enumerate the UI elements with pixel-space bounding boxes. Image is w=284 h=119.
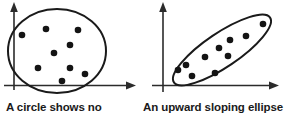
data-point (75, 27, 82, 34)
panel-ellipse: An upward sloping ellipse (142, 0, 284, 119)
data-point (51, 50, 58, 57)
data-point (212, 70, 219, 77)
data-point (35, 65, 42, 72)
data-point (243, 33, 250, 40)
x-axis-arrowhead (269, 81, 279, 89)
circle-outline (8, 9, 106, 93)
data-point (260, 21, 267, 28)
data-point (82, 71, 89, 78)
y-axis-arrowhead (159, 2, 167, 12)
data-point (67, 42, 74, 49)
x-axis-arrowhead (126, 81, 136, 89)
y-axis-arrowhead (10, 2, 18, 12)
data-points-circle (19, 26, 89, 85)
data-point (202, 54, 209, 61)
data-point (227, 37, 234, 44)
data-point (183, 62, 190, 69)
data-point (175, 67, 182, 74)
panel-circle: A circle shows no (0, 0, 142, 119)
caption-ellipse: An upward sloping ellipse (142, 100, 284, 114)
data-point (19, 32, 26, 39)
data-point (216, 45, 223, 52)
data-point (67, 65, 74, 72)
data-point (43, 26, 50, 33)
data-point (59, 78, 66, 85)
scatter-plot-ellipse (142, 0, 284, 100)
figure-root: A circle shows no (0, 0, 284, 119)
scatter-plot-circle (0, 0, 142, 100)
caption-circle: A circle shows no (0, 100, 148, 114)
data-point (225, 53, 232, 60)
data-point (189, 73, 196, 80)
ellipse-outline (164, 3, 279, 96)
